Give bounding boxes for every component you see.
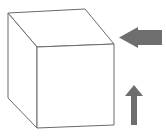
cube-shape xyxy=(8,9,114,128)
cube-force-diagram xyxy=(0,0,166,140)
figure-container xyxy=(0,0,166,140)
cube-front-face xyxy=(37,44,114,128)
